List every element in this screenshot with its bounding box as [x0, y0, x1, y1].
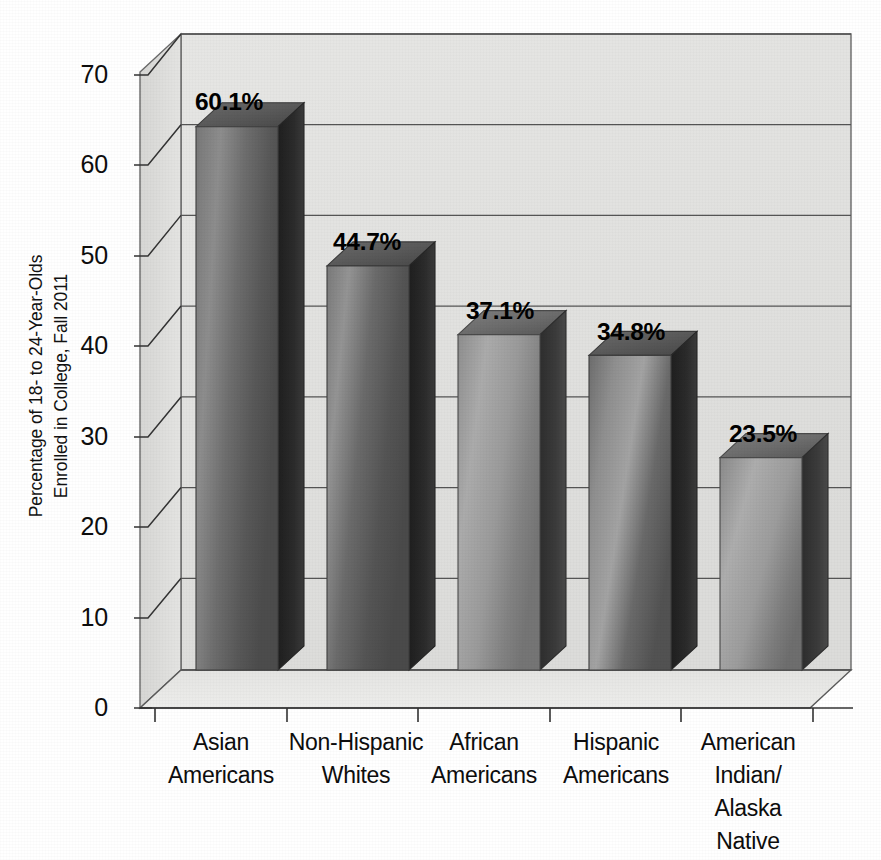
x-category-label-non-hispanic-whites: Non-Hispanic Whites [282, 726, 430, 792]
cat-line: American [679, 726, 817, 759]
cat-line: Americans [152, 759, 290, 792]
cat-line: Asian [152, 726, 290, 759]
y-tick-label-50: 50 [46, 243, 108, 268]
cat-line: Native [679, 825, 817, 858]
bar-side-face [409, 242, 435, 670]
cat-line: Whites [282, 759, 430, 792]
y-tick-label-60: 60 [46, 152, 108, 177]
bar-front-face [327, 266, 409, 670]
cat-line: Hispanic [547, 726, 685, 759]
bar-front-face [720, 458, 802, 670]
y-tick-label-30: 30 [46, 424, 108, 449]
plot-floor [140, 670, 851, 708]
x-category-label-asian-americans: Asian Americans [152, 726, 290, 792]
bar-american-indian-alaska-native[interactable] [720, 434, 828, 670]
cat-line: Indian/ [679, 759, 817, 792]
cat-line: Americans [415, 759, 553, 792]
plot-left-wall [140, 34, 181, 708]
bar-african-americans[interactable] [458, 311, 566, 670]
bar-front-face [458, 335, 540, 670]
bar-side-face [540, 311, 566, 670]
bar-side-face [671, 331, 697, 670]
y-tick-label-20: 20 [46, 514, 108, 539]
y-tick-label-70: 70 [46, 62, 108, 87]
bar-asian-americans[interactable] [196, 103, 304, 670]
chart-page: Percentage of 18- to 24-Year-Olds Enroll… [0, 0, 881, 860]
y-tick-label-0: 0 [46, 695, 108, 720]
bar-front-face [196, 127, 278, 670]
data-label-hispanic-americans: 34.8% [597, 318, 665, 346]
y-tick-label-40: 40 [46, 333, 108, 358]
cat-line: Non-Hispanic [282, 726, 430, 759]
y-axis-title-line-2: Enrolled in College, Fall 2011 [49, 274, 74, 498]
data-label-non-hispanic-whites: 44.7% [333, 228, 401, 256]
x-axis [140, 708, 853, 722]
cat-line: Americans [547, 759, 685, 792]
cat-line: African [415, 726, 553, 759]
bar-hispanic-americans[interactable] [589, 331, 697, 670]
data-label-american-indian-alaska-native: 23.5% [729, 420, 797, 448]
data-label-asian-americans: 60.1% [195, 88, 263, 116]
bar-non-hispanic-whites[interactable] [327, 242, 435, 670]
x-category-label-african-americans: African Americans [415, 726, 553, 792]
data-label-african-americans: 37.1% [466, 297, 534, 325]
cat-line: Alaska [679, 792, 817, 825]
y-tick-label-10: 10 [46, 605, 108, 630]
y-axis-title: Percentage of 18- to 24-Year-Olds Enroll… [22, 156, 76, 616]
bar-front-face [589, 355, 671, 670]
y-axis-title-line-1: Percentage of 18- to 24-Year-Olds [24, 255, 49, 518]
bar-side-face [802, 434, 828, 670]
x-category-label-hispanic-americans: Hispanic Americans [547, 726, 685, 792]
x-category-label-american-indian-alaska-native: American Indian/ Alaska Native [679, 726, 817, 858]
bar-side-face [278, 103, 304, 670]
